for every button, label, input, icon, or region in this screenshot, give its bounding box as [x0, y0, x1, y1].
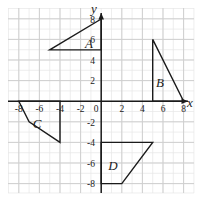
x-tick-label: -6: [35, 104, 43, 114]
y-tick-label: -2: [87, 118, 95, 128]
y-tick-label: -6: [87, 159, 95, 169]
graph-svg: x y -8 -6 -4 -2 0 2 4 6 8 8 6 4 2 -2 -4 …: [0, 0, 202, 201]
coordinate-plane-figure: x y -8 -6 -4 -2 0 2 4 6 8 8 6 4 2 -2 -4 …: [0, 0, 202, 201]
shape-label-b: B: [156, 75, 164, 90]
y-tick-label: 4: [90, 56, 95, 66]
x-tick-label-origin: 0: [94, 104, 99, 114]
y-tick-label: -8: [87, 179, 95, 189]
x-tick-label: 2: [119, 104, 124, 114]
y-tick-label: 2: [90, 76, 95, 86]
shape-label-c: C: [33, 116, 42, 131]
x-tick-label: 6: [161, 104, 166, 114]
shape-label-a: A: [84, 36, 93, 51]
x-tick-label: 8: [181, 104, 186, 114]
y-tick-label: -4: [87, 138, 95, 148]
x-tick-label: -2: [77, 104, 85, 114]
x-tick-label: 4: [140, 104, 145, 114]
shape-label-d: D: [107, 158, 118, 173]
x-tick-label: -8: [15, 104, 23, 114]
x-axis-label: x: [186, 95, 193, 110]
